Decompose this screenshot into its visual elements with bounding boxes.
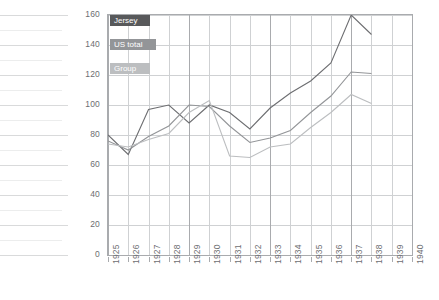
x-axis-tick-label: 1935 [315, 244, 324, 264]
x-axis-tick-mark [189, 257, 190, 262]
x-axis-tick-label: 1932 [254, 244, 263, 264]
legend-item-jersey[interactable]: Jersey [110, 15, 150, 26]
outer-gridline [0, 90, 62, 91]
x-axis-tick-mark [371, 257, 372, 262]
x-axis-tick-label: 1926 [132, 244, 141, 264]
x-axis-tick-mark [290, 257, 291, 262]
outer-gridline [0, 150, 62, 151]
x-axis-tick-label: 1930 [213, 244, 222, 264]
x-axis-tick-label: 1938 [375, 244, 384, 264]
x-axis-tick-mark [351, 257, 352, 262]
x-axis-tick-label: 1931 [234, 244, 243, 264]
outer-gridline [0, 195, 68, 196]
legend-item-us-total[interactable]: US total [110, 39, 156, 50]
y-axis-tick-label: 80 [66, 130, 100, 139]
x-axis-tick-label: 1929 [193, 244, 202, 264]
y-axis-tick-label: 0 [66, 250, 100, 259]
outer-gridline [0, 225, 68, 226]
x-axis-tick-mark [209, 257, 210, 262]
legend-item-label: US total [114, 39, 142, 50]
outer-gridline [0, 180, 62, 181]
outer-gridline [0, 135, 68, 136]
series-canvas [108, 15, 412, 255]
x-axis-tick-label: 1934 [294, 244, 303, 264]
outer-gridline [0, 120, 62, 121]
y-axis-tick-label: 120 [66, 70, 100, 79]
outer-gridline [0, 15, 68, 16]
outer-gridline [0, 45, 68, 46]
y-axis-tick-label: 60 [66, 160, 100, 169]
legend-item-label: Group [114, 63, 136, 74]
x-axis-tick-label: 1933 [274, 244, 283, 264]
outer-gridline [0, 105, 68, 106]
x-axis-tick-label: 1928 [173, 244, 182, 264]
legend-item-group[interactable]: Group [110, 63, 150, 74]
x-axis-tick-mark [149, 257, 150, 262]
outer-gridline [0, 240, 62, 241]
x-axis-tick-label: 1925 [112, 244, 121, 264]
outer-gridline [0, 30, 62, 31]
outer-gridline [0, 210, 62, 211]
x-axis-tick-mark [108, 257, 109, 262]
x-axis-tick-label: 1936 [335, 244, 344, 264]
x-axis-tick-mark [392, 257, 393, 262]
outer-gridline [0, 255, 68, 256]
x-axis-tick-mark [412, 257, 413, 262]
x-axis-tick-mark [270, 257, 271, 262]
x-axis-tick-mark [311, 257, 312, 262]
x-axis-tick-label: 1939 [396, 244, 405, 264]
y-axis-tick-label: 40 [66, 190, 100, 199]
x-axis-tick-mark [169, 257, 170, 262]
x-axis-tick-label: 1937 [355, 244, 364, 264]
outer-gridline [0, 60, 62, 61]
line-chart: 020406080100120140160 192519261927192819… [0, 0, 439, 300]
outer-gridline [0, 165, 68, 166]
outer-gridline [0, 75, 68, 76]
x-axis-tick-mark [250, 257, 251, 262]
y-axis-tick-label: 140 [66, 40, 100, 49]
x-axis-tick-label: 1927 [153, 244, 162, 264]
legend-item-label: Jersey [114, 15, 138, 26]
plot-area [107, 14, 413, 256]
x-axis-tick-mark [230, 257, 231, 262]
y-axis-tick-label: 100 [66, 100, 100, 109]
x-axis-tick-mark [331, 257, 332, 262]
x-axis-tick-label: 1940 [416, 244, 425, 264]
y-axis-tick-label: 160 [66, 10, 100, 19]
x-axis-tick-mark [128, 257, 129, 262]
y-axis-tick-label: 20 [66, 220, 100, 229]
